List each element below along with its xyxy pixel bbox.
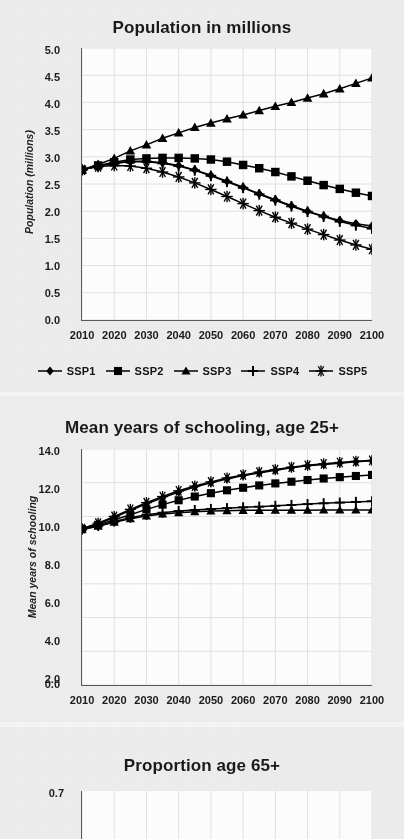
y-tick: 8.0 [20, 560, 60, 571]
legend-label: SSP3 [203, 365, 232, 377]
y-tick: 4.0 [20, 636, 60, 647]
plot-area-proportion65 [82, 791, 372, 839]
x-tick: 2050 [195, 329, 227, 341]
y-tick: 3.5 [26, 126, 60, 137]
square-marker-icon [105, 364, 131, 378]
y-tick: 2.0 [26, 207, 60, 218]
legend-label: SSP4 [270, 365, 299, 377]
legend-item-ssp1[interactable]: SSP1 [37, 364, 96, 378]
y-axis-line-proportion65 [81, 791, 82, 839]
x-tick: 2070 [259, 694, 291, 706]
legend-label: SSP1 [67, 365, 96, 377]
x-tick: 2020 [98, 329, 130, 341]
y-axis-line-population [81, 48, 82, 321]
panel-divider-2 [0, 722, 404, 727]
x-tick: 2030 [130, 329, 162, 341]
y-tick: 12.0 [20, 484, 60, 495]
legend-item-ssp5[interactable]: SSP5 [308, 364, 367, 378]
y-tick-top-proportion65: 0.7 [30, 788, 64, 799]
x-tick: 2090 [324, 694, 356, 706]
y-tick: 4.5 [26, 72, 60, 83]
y-tick-zero-schooling: 0.0 [20, 679, 60, 690]
y-tick: 2.5 [26, 180, 60, 191]
y-tick: 5.0 [26, 45, 60, 56]
y-tick: 6.0 [20, 598, 60, 609]
x-tick: 2080 [291, 694, 323, 706]
chart-title-schooling: Mean years of schooling, age 25+ [0, 418, 404, 438]
x-tick-labels-population: 2010202020302040205020602070208020902100 [66, 329, 388, 341]
x-tick: 2010 [66, 329, 98, 341]
y-axis-label-schooling: Mean years of schooling [26, 482, 38, 632]
y-tick: 4.0 [26, 99, 60, 110]
asterisk-marker-icon [308, 364, 334, 378]
x-tick: 2040 [163, 329, 195, 341]
plot-area-schooling [82, 449, 372, 685]
x-tick: 2010 [66, 694, 98, 706]
diamond-marker-icon [37, 364, 63, 378]
triangle-marker-icon [173, 364, 199, 378]
y-tick: 14.0 [20, 446, 60, 457]
legend-population: SSP1SSP2SSP3SSP4SSP5 [0, 361, 404, 381]
x-tick-labels-schooling: 2010202020302040205020602070208020902100 [66, 694, 388, 706]
y-tick: 0.5 [26, 288, 60, 299]
panel-schooling: Mean years of schooling, age 25+ Mean ye… [0, 396, 404, 726]
x-tick: 2100 [356, 694, 388, 706]
x-tick: 2100 [356, 329, 388, 341]
legend-item-ssp4[interactable]: SSP4 [240, 364, 299, 378]
x-tick: 2050 [195, 694, 227, 706]
y-tick: 1.0 [26, 261, 60, 272]
chart-title-population: Population in millions [0, 18, 404, 38]
x-tick: 2020 [98, 694, 130, 706]
y-axis-line-schooling [81, 449, 82, 686]
y-tick: 1.5 [26, 234, 60, 245]
x-tick: 2090 [324, 329, 356, 341]
plus-marker-icon [240, 364, 266, 378]
plot-area-population [82, 48, 372, 320]
x-tick: 2060 [227, 329, 259, 341]
y-tick: 0.0 [26, 315, 60, 326]
panel-population: Population in millions Population (milli… [0, 0, 404, 392]
legend-label: SSP2 [135, 365, 164, 377]
x-tick: 2070 [259, 329, 291, 341]
legend-label: SSP5 [338, 365, 367, 377]
x-tick: 2080 [291, 329, 323, 341]
x-tick: 2040 [163, 694, 195, 706]
x-tick: 2060 [227, 694, 259, 706]
x-tick: 2030 [130, 694, 162, 706]
chart-title-proportion65: Proportion age 65+ [0, 756, 404, 776]
y-tick: 3.0 [26, 153, 60, 164]
x-axis-line-population [81, 320, 372, 321]
legend-item-ssp2[interactable]: SSP2 [105, 364, 164, 378]
y-tick: 10.0 [20, 522, 60, 533]
panel-proportion65: Proportion age 65+ 0.7 [0, 728, 404, 839]
legend-item-ssp3[interactable]: SSP3 [173, 364, 232, 378]
x-axis-line-schooling [81, 685, 372, 686]
